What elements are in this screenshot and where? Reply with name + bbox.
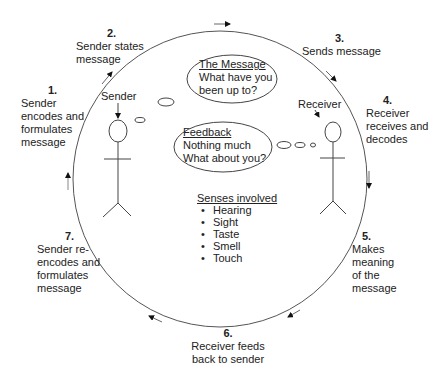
arrow-6-to-7-icon [149, 316, 162, 322]
step-2-label: 2. Sender states message [76, 27, 144, 66]
step-6-line: Receiver feeds [178, 340, 278, 353]
message-title: The Message [199, 58, 272, 71]
step-5-label: 5. Makes meaning of the message [352, 230, 397, 295]
step-3-line: Sends message [302, 45, 381, 58]
step-4-number: 4. [366, 94, 428, 107]
step-5-line: meaning [352, 256, 397, 269]
step-1-line: Sender [21, 97, 84, 110]
feedback-title: Feedback [183, 126, 266, 139]
step-4-line: decodes [366, 133, 428, 146]
step-7-line: encodes and [37, 256, 100, 269]
feedback-line: Nothing much [183, 139, 266, 152]
step-7-line: message [37, 282, 100, 295]
step-6-number: 6. [178, 327, 278, 340]
feedback-line: What about you? [183, 152, 266, 165]
sense-item: Smell [213, 240, 277, 252]
sender-figure-icon [103, 103, 131, 217]
step-1-line: formulates [21, 123, 84, 136]
arrow-3-to-4-icon [326, 71, 336, 81]
step-5-line: Makes [352, 243, 397, 256]
step-1-line: encodes and [21, 110, 84, 123]
step-1-number: 1. [21, 84, 84, 97]
step-4-label: 4. Receiver receives and decodes [366, 94, 428, 146]
message-line: What have you [199, 71, 272, 84]
step-5-line: message [352, 282, 397, 295]
senses-list: Senses involved Hearing Sight Taste Smel… [199, 192, 277, 264]
arrow-1-to-2-icon [102, 72, 112, 84]
step-7-number: 7. [37, 230, 100, 243]
step-7-line: Sender re- [37, 243, 100, 256]
step-1-line: message [21, 136, 84, 149]
step-3-number: 3. [302, 32, 381, 45]
step-5-line: of the [352, 269, 397, 282]
receiver-figure-icon [315, 110, 346, 214]
feedback-bubble: Feedback Nothing much What about you? [183, 126, 266, 165]
step-2-line: Sender states [76, 40, 144, 53]
step-2-line: message [76, 53, 144, 66]
sense-item: Taste [213, 228, 277, 240]
step-5-number: 5. [352, 230, 397, 243]
sense-item: Hearing [213, 204, 277, 216]
arrow-5-to-6-icon [288, 310, 300, 317]
message-line: been up to? [199, 84, 272, 97]
senses-title: Senses involved [197, 192, 277, 204]
step-2-number: 2. [76, 27, 144, 40]
sender-label: Sender [101, 90, 136, 103]
step-4-line: Receiver [366, 107, 428, 120]
step-6-label: 6. Receiver feeds back to sender [178, 327, 278, 366]
step-4-line: receives and [366, 120, 428, 133]
step-6-line: back to sender [178, 353, 278, 366]
sense-item: Touch [213, 252, 277, 264]
sense-item: Sight [213, 216, 277, 228]
step-3-label: 3. Sends message [302, 32, 381, 58]
message-bubble: The Message What have you been up to? [199, 58, 272, 97]
step-7-line: formulates [37, 269, 100, 282]
communication-cycle-diagram: 1. Sender encodes and formulates message… [0, 0, 445, 370]
step-1-label: 1. Sender encodes and formulates message [21, 84, 84, 149]
receiver-label: Receiver [298, 98, 341, 111]
step-7-label: 7. Sender re- encodes and formulates mes… [37, 230, 100, 295]
